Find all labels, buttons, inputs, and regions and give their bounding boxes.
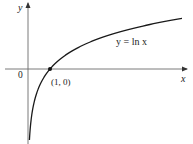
ln-graph-svg: y x 0 (1, 0) y = ln x [0,0,193,144]
ln-graph-figure: y x 0 (1, 0) y = ln x [0,0,193,144]
origin-label: 0 [18,70,23,80]
curve-label: y = ln x [116,36,147,47]
y-axis-label: y [17,2,23,13]
point-label: (1, 0) [51,77,71,87]
point-1-0-dot [48,67,52,71]
x-axis-label: x [180,73,186,84]
